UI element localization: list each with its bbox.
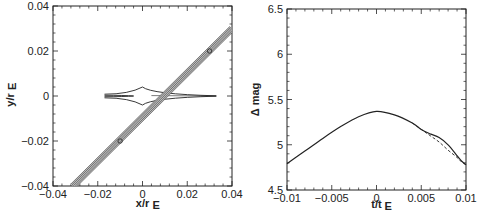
x-axis-label: x/r [136,197,150,209]
y-tick-label: −0.04 [21,180,49,192]
y-tick-label: 5.5 [268,94,283,106]
solid-lightcurve [287,111,466,164]
x-tick-label: −0.02 [84,188,112,200]
x-tick-label: −0.005 [315,192,349,204]
y-tick-label: 6.5 [268,3,283,15]
y-axis-label: y/rE [4,83,18,107]
right-panel-lightcurve-plot: −0.01−0.00500.0050.016.565.554.5t/tEΔ ma… [249,3,477,212]
dashed-lightcurve [412,123,466,165]
y-tick-label: 6 [277,48,283,60]
source-trajectory [71,26,234,188]
x-tick-label: 0.02 [177,188,198,200]
svg-text:E: E [153,199,160,211]
y-tick-label: 0 [43,90,49,102]
y-tick-label: 0.04 [28,0,49,12]
svg-text:E: E [6,83,18,90]
x-tick-label: 0.01 [455,192,476,204]
svg-text:Δ mag: Δ mag [249,83,261,117]
plot-frame [287,9,466,190]
y-tick-label: 4.5 [268,184,283,196]
x-axis-label: t/t [371,198,382,210]
y-tick-label: 5 [277,139,283,151]
x-tick-label: 0.04 [221,188,242,200]
y-axis-label: Δ mag [249,83,261,117]
svg-text:E: E [385,200,392,212]
svg-text:y/r: y/r [4,93,16,107]
x-tick-label: 0.005 [407,192,435,204]
y-tick-label: −0.02 [21,135,49,147]
y-tick-label: 0.02 [28,45,49,57]
left-panel-caustic-plot: −0.04−0.0200.020.040.040.020−0.02−0.04x/… [4,0,243,211]
figure: −0.04−0.0200.020.040.040.020−0.02−0.04x/… [0,0,477,221]
